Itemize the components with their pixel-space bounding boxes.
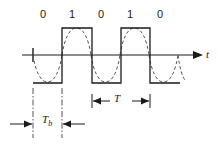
time-axis-label: t <box>206 48 209 60</box>
bpsk-waveform-figure: 0 1 0 1 0 t T Tb <box>0 0 219 144</box>
bit-label-2: 0 <box>93 8 109 20</box>
time-axis <box>22 51 203 59</box>
bit-duration-label: Tb <box>42 113 52 128</box>
period-dimension <box>92 94 150 108</box>
waveform-canvas <box>0 0 219 144</box>
bit-label-3: 1 <box>122 8 138 20</box>
bit-label-1: 1 <box>64 8 80 20</box>
period-label: T <box>114 92 120 104</box>
bit-label-4: 0 <box>152 8 168 20</box>
bit-label-0: 0 <box>35 8 51 20</box>
bit-duration-label-sub: b <box>48 119 52 128</box>
